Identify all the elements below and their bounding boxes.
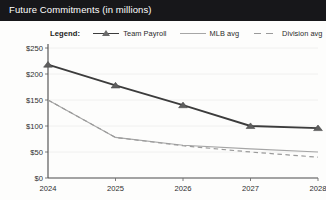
y-tick-label: $200 bbox=[26, 70, 43, 79]
y-tick-label: $250 bbox=[26, 44, 43, 53]
series-line-division-avg bbox=[48, 100, 318, 157]
line-chart: $0$50$100$150$200$2502024202520262027202… bbox=[0, 21, 326, 200]
y-tick-label: $150 bbox=[26, 96, 43, 105]
x-tick-label: 2025 bbox=[107, 184, 124, 193]
y-tick-label: $50 bbox=[30, 148, 43, 157]
x-tick-label: 2024 bbox=[40, 184, 57, 193]
y-tick-label: $0 bbox=[35, 174, 43, 183]
chart-plot-area: $0$50$100$150$200$2502024202520262027202… bbox=[0, 21, 326, 200]
x-tick-label: 2028 bbox=[310, 184, 326, 193]
data-point-marker bbox=[44, 62, 53, 68]
x-tick-label: 2027 bbox=[242, 184, 259, 193]
window-titlebar: Future Commitments (in millions) bbox=[0, 0, 326, 21]
page-title: Future Commitments (in millions) bbox=[9, 4, 152, 15]
x-tick-label: 2026 bbox=[175, 184, 192, 193]
chart-window: Future Commitments (in millions) Legend:… bbox=[0, 0, 326, 200]
y-tick-label: $100 bbox=[26, 122, 43, 131]
